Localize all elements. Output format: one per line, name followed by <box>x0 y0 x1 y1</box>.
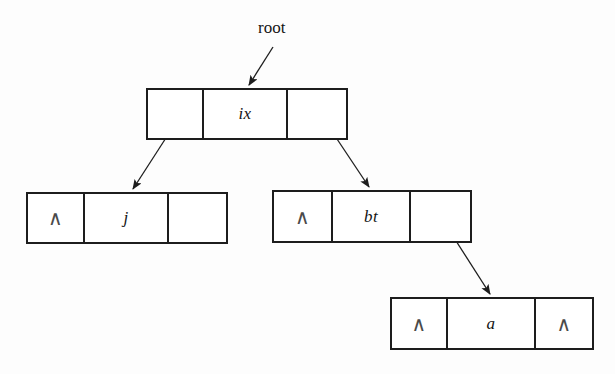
root-label: root <box>258 18 285 38</box>
left-child-node-value-cell: j <box>85 194 169 242</box>
leaf-node-right-null-icon: ∧ <box>557 314 572 334</box>
right-child-node-value-cell: bt <box>333 192 411 241</box>
left-child-node-left-pointer-cell: ∧ <box>28 194 85 242</box>
root-node-value-cell: ix <box>204 90 288 138</box>
root-node-left-pointer-cell <box>148 90 204 138</box>
leaf-node-right-pointer-cell: ∧ <box>536 299 592 348</box>
leaf-node-left-pointer-cell: ∧ <box>392 299 448 348</box>
root-node-right-pointer-cell <box>288 90 346 138</box>
left-child-node: ∧ j <box>26 192 228 244</box>
right-child-node: ∧ bt <box>272 190 472 243</box>
right-child-node-right-pointer-cell <box>411 192 470 241</box>
right-child-node-left-pointer-cell: ∧ <box>274 192 333 241</box>
binary-tree-diagram: root ix ∧ j ∧ bt <box>0 0 615 374</box>
leaf-node-left-null-icon: ∧ <box>411 314 426 334</box>
root-pointer-arrow <box>249 47 273 85</box>
leaf-node-value-text: a <box>487 314 496 334</box>
left-child-node-null-icon: ∧ <box>48 208 63 228</box>
leaf-node: ∧ a ∧ <box>390 297 594 350</box>
leaf-node-value-cell: a <box>448 299 536 348</box>
root-node-value-text: ix <box>239 104 252 124</box>
left-child-node-right-pointer-cell <box>169 194 226 242</box>
right-child-node-null-icon: ∧ <box>295 207 310 227</box>
left-child-node-value-text: j <box>124 208 129 228</box>
root-node: ix <box>146 88 348 140</box>
right-child-node-value-text: bt <box>364 207 378 227</box>
